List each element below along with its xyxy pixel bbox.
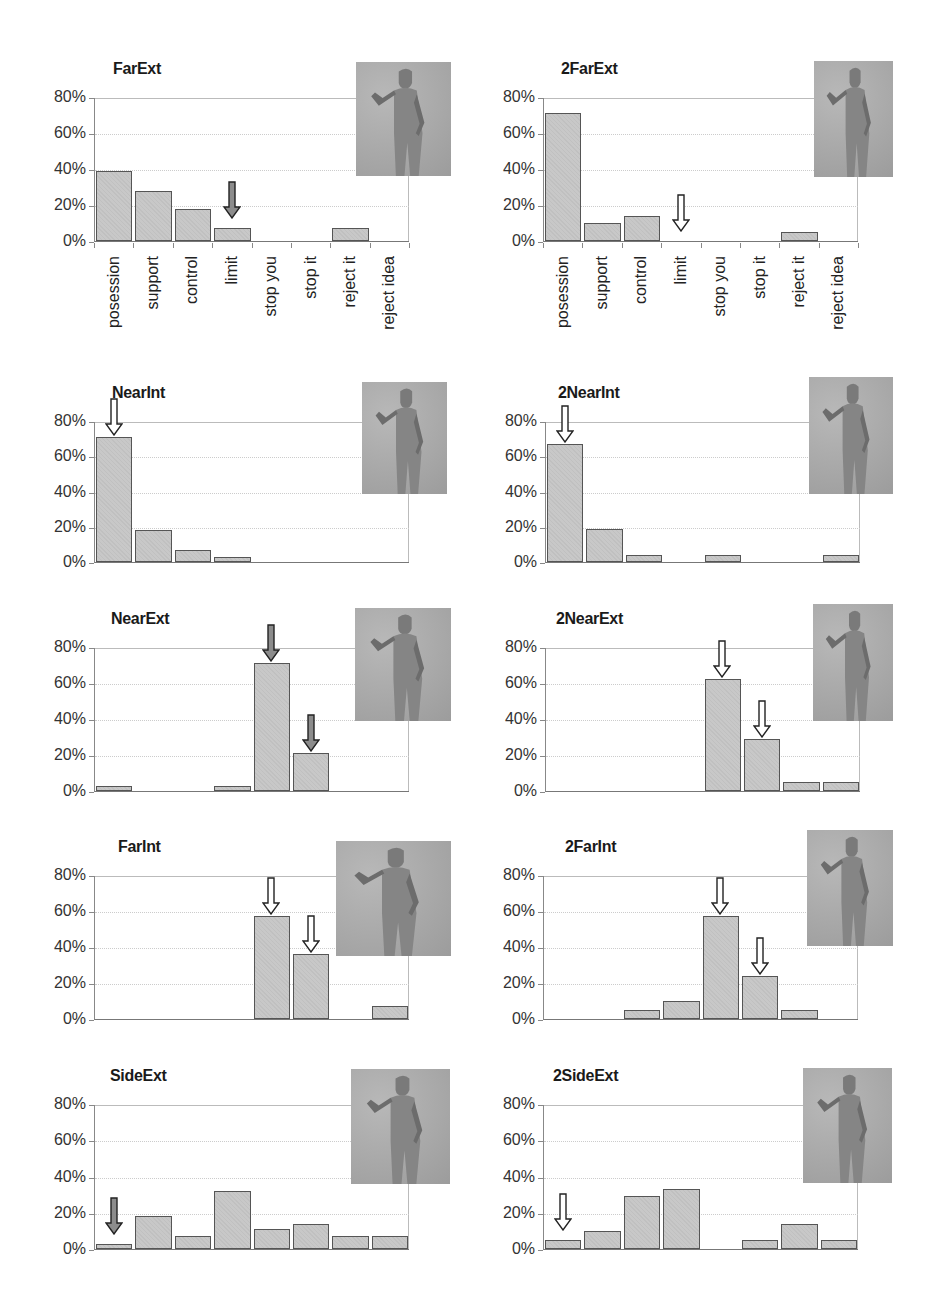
y-tick-label: 40%: [487, 483, 537, 501]
y-tick-label: 60%: [487, 674, 537, 692]
y-tick-label: 40%: [36, 160, 86, 178]
x-tick-mark: [661, 243, 662, 248]
y-tick-mark: [89, 1020, 94, 1021]
bar-reject-it: [332, 1236, 368, 1249]
x-axis-label: reject it: [341, 256, 359, 366]
bar-reject-it: [783, 782, 819, 791]
arrow-down-icon: [262, 877, 280, 915]
plot-area: [543, 98, 858, 242]
chart-title: 2NearInt: [558, 384, 620, 402]
y-tick-label: 20%: [36, 518, 86, 536]
bar-stop-you: [703, 916, 739, 1019]
gridline: [546, 756, 860, 757]
bar-reject-idea: [823, 555, 859, 562]
chart-title: 2SideExt: [553, 1067, 618, 1085]
y-tick-label: 80%: [36, 1095, 86, 1113]
y-tick-label: 20%: [36, 196, 86, 214]
gridline: [544, 170, 858, 171]
gridline: [95, 528, 409, 529]
y-tick-label: 60%: [36, 1131, 86, 1149]
gesture-figure-image: [809, 377, 893, 494]
arrow-down-icon: [223, 181, 241, 219]
y-tick-mark: [540, 563, 545, 564]
x-axis-label: stop you: [262, 256, 280, 366]
y-tick-label: 20%: [36, 1204, 86, 1222]
arrow-down-icon: [302, 915, 320, 953]
bar-posession: [96, 171, 132, 241]
bar-stop-you: [705, 679, 741, 791]
bar-reject-it: [781, 232, 817, 241]
x-axis-label: reject it: [790, 256, 808, 366]
bar-stop-you: [705, 555, 741, 562]
y-tick-label: 60%: [487, 447, 537, 465]
y-tick-label: 20%: [485, 974, 535, 992]
arrow-down-icon: [554, 1193, 572, 1231]
x-tick-mark: [252, 243, 253, 248]
gridline: [544, 98, 858, 99]
arrow-down-icon: [262, 624, 280, 662]
bar-support: [135, 191, 171, 241]
y-tick-label: 20%: [487, 518, 537, 536]
arrow-down-icon: [302, 714, 320, 752]
bar-posession: [547, 444, 583, 562]
y-tick-label: 60%: [485, 902, 535, 920]
x-tick-mark: [858, 243, 859, 248]
gesture-figure-image: [356, 62, 451, 176]
x-axis-label: support: [144, 256, 162, 366]
x-tick-mark: [543, 243, 544, 248]
x-axis-label: stop it: [751, 256, 769, 366]
y-tick-label: 0%: [36, 553, 86, 571]
gesture-figure-image: [362, 382, 447, 494]
y-tick-label: 20%: [485, 1204, 535, 1222]
y-tick-label: 80%: [36, 88, 86, 106]
bar-control: [626, 555, 662, 562]
bar-control: [624, 216, 660, 241]
bar-reject-it: [332, 228, 368, 241]
arrow-down-icon: [711, 877, 729, 915]
y-tick-mark: [89, 792, 94, 793]
y-tick-label: 40%: [36, 710, 86, 728]
bar-limit: [663, 1189, 699, 1249]
y-tick-label: 0%: [485, 1240, 535, 1258]
y-tick-label: 20%: [487, 746, 537, 764]
arrow-down-icon: [751, 937, 769, 975]
x-tick-mark: [582, 243, 583, 248]
gridline: [95, 756, 409, 757]
gridline: [95, 984, 409, 985]
bar-control: [175, 1236, 211, 1249]
bar-stop-it: [742, 1240, 778, 1249]
bar-reject-idea: [821, 1240, 857, 1249]
gridline: [544, 206, 858, 207]
x-tick-mark: [94, 243, 95, 248]
arrow-down-icon: [556, 405, 574, 443]
x-axis-label: control: [183, 256, 201, 366]
y-tick-label: 60%: [36, 447, 86, 465]
gesture-figure-image: [803, 1068, 892, 1183]
x-axis-label: limit: [672, 256, 690, 366]
y-tick-label: 0%: [36, 1240, 86, 1258]
x-tick-mark: [622, 243, 623, 248]
y-tick-mark: [540, 792, 545, 793]
x-axis-label: control: [632, 256, 650, 366]
y-tick-label: 20%: [36, 974, 86, 992]
x-axis-label: stop it: [302, 256, 320, 366]
y-tick-label: 20%: [485, 196, 535, 214]
y-tick-label: 80%: [36, 638, 86, 656]
bar-control: [175, 209, 211, 241]
bar-support: [135, 1216, 171, 1249]
arrow-down-icon: [105, 398, 123, 436]
chart-title: 2FarInt: [565, 838, 616, 856]
x-axis-label: reject idea: [380, 256, 398, 366]
y-tick-label: 0%: [36, 1010, 86, 1028]
y-tick-label: 40%: [485, 160, 535, 178]
y-tick-label: 60%: [485, 124, 535, 142]
bar-reject-it: [781, 1010, 817, 1019]
y-tick-label: 0%: [487, 553, 537, 571]
bar-stop-it: [744, 739, 780, 791]
y-tick-label: 60%: [36, 902, 86, 920]
y-tick-label: 40%: [487, 710, 537, 728]
bar-control: [175, 550, 211, 562]
gridline: [95, 1214, 409, 1215]
bar-limit: [214, 1191, 250, 1249]
bar-limit: [214, 557, 250, 562]
